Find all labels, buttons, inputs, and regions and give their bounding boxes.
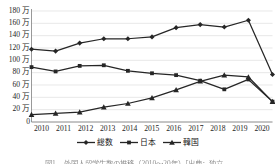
x-tick-label: 2011 xyxy=(53,124,75,133)
data-point xyxy=(126,69,130,73)
y-tick-label: 0 xyxy=(0,118,30,126)
data-point xyxy=(54,70,58,74)
data-series-layer xyxy=(29,18,275,117)
y-tick-label: 180 万 xyxy=(0,7,30,15)
x-tick-label: 2017 xyxy=(185,124,207,133)
x-tick-label: 2014 xyxy=(119,124,141,133)
triangle-marker-icon xyxy=(162,138,182,147)
y-tick-label: 160 万 xyxy=(0,19,30,27)
x-tick-label: 2012 xyxy=(75,124,97,133)
data-point xyxy=(77,41,82,46)
legend-label: 日本 xyxy=(140,138,156,147)
figure-caption: 図1 外国人留学生数の推移（2010～20年）［出典：独立… xyxy=(0,152,275,164)
x-tick-label: 2010 xyxy=(31,124,53,133)
y-tick-label: 100 万 xyxy=(0,56,30,64)
x-tick-label: 2018 xyxy=(207,124,229,133)
y-tick-label: 60 万 xyxy=(0,81,30,89)
legend-item-diamond[interactable]: 総数 xyxy=(76,138,113,147)
data-point xyxy=(78,64,82,68)
gridlines xyxy=(32,11,273,122)
x-axis-tick-labels: 2010201120122013201420152016201720182019… xyxy=(31,124,273,136)
y-tick-label: 80 万 xyxy=(0,68,30,76)
data-point xyxy=(101,36,106,41)
y-tick-label: 20 万 xyxy=(0,105,30,113)
data-point xyxy=(30,65,34,69)
x-tick-label: 2016 xyxy=(163,124,185,133)
diamond-marker-icon xyxy=(76,138,96,147)
data-point xyxy=(246,18,251,23)
legend-item-triangle[interactable]: 韓国 xyxy=(162,138,199,147)
chart-legend: 総数日本韓国 xyxy=(0,136,275,149)
y-axis-tick-labels: 180 万160 万140 万120 万100 万80 万60 万40 万20 … xyxy=(0,0,30,131)
x-tick-label: 2019 xyxy=(229,124,251,133)
x-tick-label: 2020 xyxy=(251,124,273,133)
y-tick-label: 40 万 xyxy=(0,93,30,101)
plot-area: 180 万160 万140 万120 万100 万80 万60 万40 万20 … xyxy=(0,0,275,131)
data-point xyxy=(102,63,106,67)
data-point xyxy=(150,71,154,75)
data-point xyxy=(198,22,203,27)
x-tick-label: 2013 xyxy=(97,124,119,133)
legend-item-square[interactable]: 日本 xyxy=(119,138,156,147)
data-point xyxy=(53,49,58,54)
data-point xyxy=(174,73,178,77)
x-tick-label: 2015 xyxy=(141,124,163,133)
axis-lines xyxy=(32,9,273,122)
data-point xyxy=(222,87,226,91)
figure-caption-text: 図1 外国人留学生数の推移（2010～20年）［出典：独立… xyxy=(45,159,230,164)
data-point xyxy=(174,25,179,30)
y-tick-label: 120 万 xyxy=(0,44,30,52)
square-marker-icon xyxy=(119,138,139,147)
y-tick-label: 140 万 xyxy=(0,31,30,39)
line-chart-svg xyxy=(0,0,275,131)
data-point xyxy=(125,36,130,41)
data-point xyxy=(149,34,154,39)
data-point xyxy=(222,24,227,29)
legend-label: 総数 xyxy=(97,138,113,147)
chart-figure: 180 万160 万140 万120 万100 万80 万60 万40 万20 … xyxy=(0,0,275,164)
legend-label: 韓国 xyxy=(183,138,199,147)
